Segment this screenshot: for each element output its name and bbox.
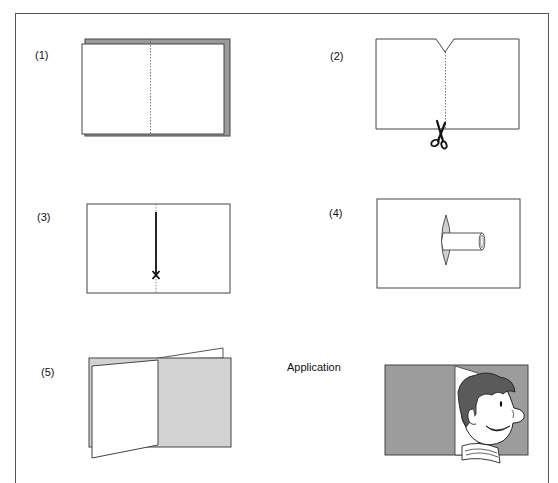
open-flap <box>92 360 158 458</box>
application-illustration <box>385 365 528 463</box>
rolled-tab <box>442 233 483 250</box>
tab-end <box>479 233 485 250</box>
back-page-edge <box>152 348 223 359</box>
step-3-illustration <box>87 204 230 293</box>
front-sheet <box>82 44 224 134</box>
sheet <box>87 204 230 293</box>
step-5-illustration <box>89 348 231 458</box>
step-4-illustration <box>377 199 520 288</box>
step-2-illustration <box>376 39 519 149</box>
notched-sheet <box>376 39 519 129</box>
step-1-illustration <box>82 39 230 136</box>
